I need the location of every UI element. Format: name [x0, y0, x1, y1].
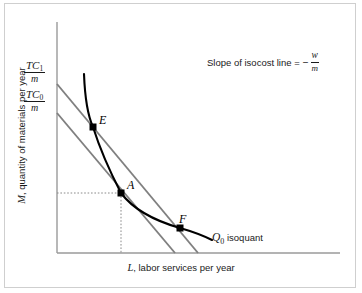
point-label-a: A — [127, 178, 134, 193]
isoquant-symbol: Q0 — [212, 231, 224, 243]
y-axis-title: M, quantity of materials per year — [16, 36, 27, 236]
intercept-tc1-numerator: TC1 — [24, 60, 45, 73]
isoquant-label-text: isoquant — [224, 232, 263, 243]
point-marker-e — [90, 124, 97, 131]
point-marker-a — [118, 190, 125, 197]
intercept-label-tc1: TC1 m — [24, 60, 45, 84]
intercept-tc0-numerator: TC0 — [24, 89, 45, 102]
slope-annotation: Slope of isocost line = − w m — [207, 52, 319, 74]
x-axis-text: , labor services per year — [133, 262, 234, 273]
slope-annotation-text: Slope of isocost line = — [207, 57, 300, 68]
slope-fraction: w m — [311, 51, 319, 73]
isoquant-isocost-figure: TC1 m TC0 m E A F Q0 isoquant Slope of i… — [0, 0, 362, 293]
intercept-tc1-denominator: m — [24, 73, 45, 84]
y-axis-text: , quantity of materials per year — [16, 67, 27, 195]
slope-minus-sign: − — [303, 57, 309, 68]
point-label-f: F — [179, 212, 186, 227]
intercept-label-tc0: TC0 m — [24, 89, 45, 113]
intercept-tc0-denominator: m — [24, 102, 45, 113]
isoquant-curve — [84, 74, 212, 240]
y-axis-symbol: M — [16, 195, 27, 204]
point-label-e: E — [99, 113, 106, 128]
isoquant-label: Q0 isoquant — [212, 231, 263, 246]
slope-numerator: w — [311, 51, 319, 63]
slope-denominator: m — [311, 63, 319, 73]
x-axis-title: L, labor services per year — [0, 262, 362, 273]
plot-canvas — [0, 0, 362, 293]
